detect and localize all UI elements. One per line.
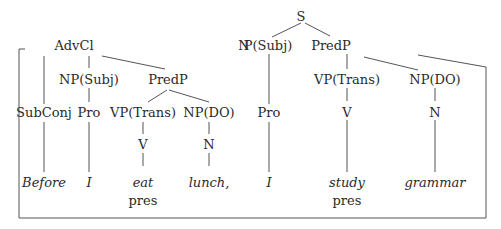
node-v-main: V bbox=[342, 106, 351, 119]
node-npdo-main: NP(DO) bbox=[409, 73, 460, 86]
edge-s-psubj bbox=[272, 23, 301, 37]
node-advcl: AdvCl bbox=[54, 39, 93, 52]
node-psubj: P(Subj) bbox=[244, 39, 293, 52]
node-n-main: N bbox=[429, 106, 440, 119]
word-i-main: I bbox=[266, 176, 271, 189]
edge-predp-npdo-adv bbox=[169, 90, 209, 102]
node-predp-adv: PredP bbox=[148, 73, 188, 86]
node-npsubj: NP(Subj) bbox=[59, 73, 119, 86]
word-lunch: lunch, bbox=[189, 176, 230, 189]
node-predp-main: PredP bbox=[311, 39, 351, 52]
word-eat: eat bbox=[133, 176, 154, 189]
edge-predp-npdo bbox=[364, 57, 418, 70]
edge-s-predp bbox=[305, 23, 330, 36]
syntax-tree-diagram: S AdvCl N P(Subj) PredP NP(Subj) PredP V… bbox=[0, 0, 501, 229]
edge-predp-vp-adv bbox=[148, 90, 167, 102]
word-i-adv: I bbox=[86, 176, 91, 189]
node-s: S bbox=[297, 10, 306, 23]
word-grammar: grammar bbox=[405, 176, 466, 189]
node-subconj: SubConj bbox=[16, 106, 72, 119]
tense-study: pres bbox=[333, 194, 362, 207]
node-pro-adv: Pro bbox=[78, 106, 101, 119]
node-vp-adv: VP(Trans) bbox=[110, 106, 176, 119]
word-study: study bbox=[329, 176, 365, 189]
edge-advcl-predp bbox=[102, 56, 165, 69]
node-npdo-adv: NP(DO) bbox=[183, 106, 234, 119]
word-before: Before bbox=[22, 176, 66, 189]
tense-eat: pres bbox=[129, 194, 158, 207]
node-v-adv: V bbox=[138, 138, 147, 151]
node-pro-main: Pro bbox=[258, 106, 281, 119]
node-n-adv: N bbox=[203, 138, 214, 151]
node-vp-main: VP(Trans) bbox=[314, 73, 380, 86]
tree-lines bbox=[0, 0, 501, 229]
